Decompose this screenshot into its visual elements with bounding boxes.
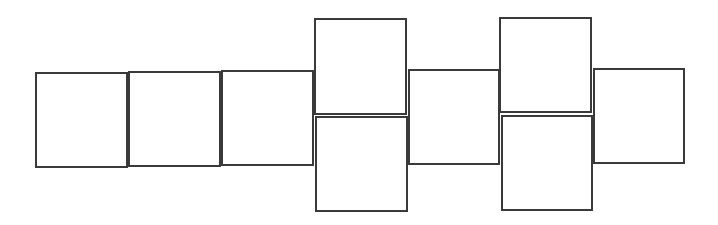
square-1 bbox=[36, 73, 127, 167]
squares-group bbox=[36, 18, 684, 211]
square-8-bottom bbox=[502, 116, 592, 210]
square-9 bbox=[594, 69, 684, 163]
square-5-bottom bbox=[316, 117, 407, 211]
square-7-top bbox=[500, 18, 591, 112]
square-4-top bbox=[315, 19, 406, 114]
square-net-diagram bbox=[0, 0, 718, 225]
square-3 bbox=[222, 71, 313, 165]
square-6 bbox=[409, 70, 499, 164]
square-2 bbox=[129, 72, 220, 166]
